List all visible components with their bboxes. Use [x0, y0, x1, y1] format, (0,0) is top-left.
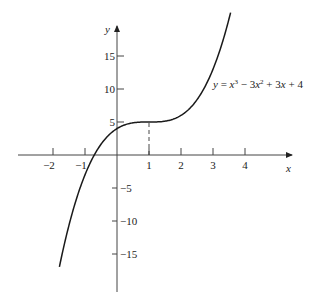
- x-ticks: −2−11234: [43, 148, 248, 171]
- y-tick-label: 5: [110, 116, 116, 128]
- equation-label: y = x3 − 3x2 + 3x + 4: [212, 78, 303, 90]
- x-axis-label: x: [285, 162, 291, 174]
- x-tick-label: 2: [178, 159, 184, 171]
- x-tick-label: 3: [210, 159, 216, 171]
- x-tick-label: 4: [242, 159, 248, 171]
- function-plot: −2−11234 15105−5−10−15 x y y = x3 − 3x2 …: [0, 0, 323, 295]
- x-tick-label: −1: [75, 159, 87, 171]
- y-axis-label: y: [104, 23, 110, 35]
- x-tick-label: −2: [43, 159, 55, 171]
- y-tick-label: 15: [104, 50, 116, 62]
- x-tick-label: 1: [146, 159, 152, 171]
- y-tick-label: −15: [120, 248, 138, 260]
- cubic-curve: [59, 13, 230, 267]
- y-tick-label: 10: [104, 83, 116, 95]
- y-tick-label: −10: [120, 215, 138, 227]
- y-tick-label: −5: [120, 182, 132, 194]
